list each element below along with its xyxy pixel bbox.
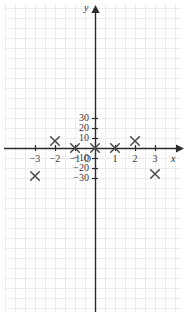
x-tick-label: −3	[30, 154, 41, 164]
x-tick-label: 1	[113, 154, 118, 164]
y-axis-label: y	[84, 3, 88, 13]
x-tick-label: 2	[133, 154, 138, 164]
y-tick-label: −30	[73, 173, 89, 183]
origin-label: O	[84, 154, 91, 164]
x-axis-label: x	[171, 154, 175, 164]
x-tick-label: 3	[153, 154, 158, 164]
y-tick-label: 10	[79, 133, 89, 143]
x-tick-label: −2	[50, 154, 61, 164]
coordinate-plane-figure: −3−2−1123302010−10−20−30O x y	[0, 0, 185, 316]
